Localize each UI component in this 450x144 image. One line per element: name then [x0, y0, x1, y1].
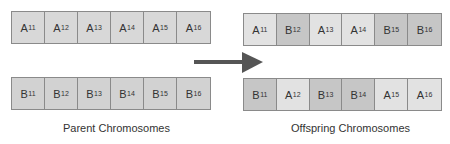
gene-index: 12 — [61, 24, 69, 31]
gene-index: 16 — [425, 91, 433, 98]
gene-letter: B — [285, 24, 292, 36]
gene-letter: B — [20, 88, 27, 100]
gene-cell: B16 — [408, 14, 441, 45]
parent-chromosome-b: B11 B12 B13 B14 B15 B16 — [11, 77, 211, 110]
gene-cell: B12 — [277, 14, 310, 45]
gene-cell: A15 — [375, 79, 408, 110]
gene-index: 13 — [94, 90, 102, 97]
gene-index: 15 — [160, 24, 168, 31]
right-arrow-icon — [194, 52, 264, 74]
gene-index: 15 — [391, 26, 399, 33]
gene-index: 11 — [28, 24, 35, 31]
gene-cell: A13 — [78, 12, 111, 43]
gene-cell: A12 — [45, 12, 78, 43]
gene-letter: A — [20, 22, 27, 34]
gene-index: 15 — [160, 90, 168, 97]
gene-letter: B — [152, 88, 159, 100]
offspring-chromosome-1: A11 B12 A13 A14 B15 B16 — [243, 13, 442, 46]
gene-letter: A — [152, 22, 159, 34]
gene-index: 16 — [194, 90, 202, 97]
gene-letter: B — [417, 24, 424, 36]
gene-index: 14 — [127, 24, 135, 31]
gene-index: 16 — [425, 26, 433, 33]
gene-cell: B14 — [342, 79, 375, 110]
gene-letter: B — [86, 88, 93, 100]
gene-cell: A11 — [244, 14, 277, 45]
gene-cell: B16 — [177, 78, 210, 109]
gene-letter: B — [53, 88, 60, 100]
gene-index: 14 — [358, 26, 366, 33]
gene-letter: A — [351, 24, 358, 36]
gene-letter: A — [383, 89, 390, 101]
gene-index: 11 — [260, 26, 267, 33]
gene-index: 12 — [61, 90, 69, 97]
gene-letter: B — [318, 89, 325, 101]
gene-cell: B15 — [375, 14, 408, 45]
gene-index: 13 — [94, 24, 102, 31]
gene-letter: A — [252, 24, 259, 36]
gene-cell: A16 — [177, 12, 210, 43]
gene-letter: B — [351, 89, 358, 101]
gene-cell: A14 — [342, 14, 375, 45]
gene-index: 13 — [326, 26, 334, 33]
gene-index: 14 — [358, 91, 366, 98]
gene-index: 15 — [391, 91, 399, 98]
parent-chromosome-a: A11 A12 A13 A14 A15 A16 — [11, 11, 211, 44]
gene-index: 14 — [127, 90, 135, 97]
gene-cell: A12 — [277, 79, 310, 110]
gene-letter: A — [417, 89, 424, 101]
gene-index: 16 — [194, 24, 202, 31]
gene-letter: B — [252, 89, 259, 101]
gene-cell: A13 — [310, 14, 343, 45]
gene-cell: B15 — [144, 78, 177, 109]
gene-letter: B — [186, 88, 193, 100]
gene-letter: A — [285, 89, 292, 101]
gene-index: 11 — [260, 91, 267, 98]
gene-cell: A16 — [408, 79, 441, 110]
offspring-chromosomes-caption: Offspring Chromosomes — [291, 122, 410, 134]
gene-cell: A11 — [12, 12, 45, 43]
gene-letter: A — [86, 22, 93, 34]
gene-letter: A — [186, 22, 193, 34]
gene-cell: B11 — [244, 79, 277, 110]
gene-cell: B13 — [78, 78, 111, 109]
gene-cell: A15 — [144, 12, 177, 43]
parent-chromosomes-caption: Parent Chromosomes — [63, 122, 170, 134]
gene-letter: A — [318, 24, 325, 36]
gene-cell: B14 — [111, 78, 144, 109]
gene-cell: A14 — [111, 12, 144, 43]
gene-index: 11 — [28, 90, 35, 97]
gene-cell: B11 — [12, 78, 45, 109]
gene-cell: B13 — [310, 79, 343, 110]
gene-index: 12 — [293, 91, 301, 98]
gene-index: 12 — [293, 26, 301, 33]
offspring-chromosome-2: B11 A12 B13 B14 A15 A16 — [243, 78, 442, 111]
gene-letter: B — [383, 24, 390, 36]
gene-letter: A — [53, 22, 60, 34]
gene-letter: B — [119, 88, 126, 100]
gene-letter: A — [119, 22, 126, 34]
gene-index: 13 — [326, 91, 334, 98]
gene-cell: B12 — [45, 78, 78, 109]
